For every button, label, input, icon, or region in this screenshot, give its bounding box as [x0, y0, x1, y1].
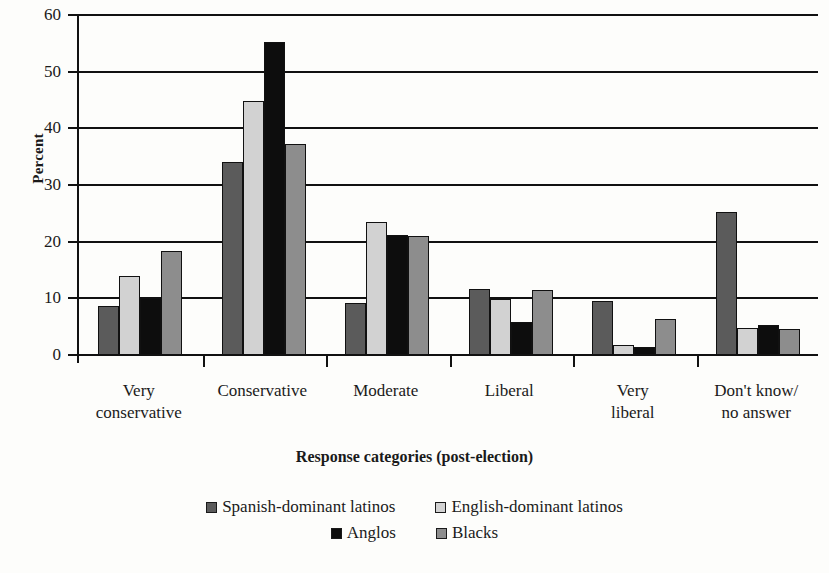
legend-swatch-icon — [435, 502, 446, 513]
legend-item: English-dominant latinos — [435, 497, 622, 517]
bar — [345, 303, 366, 355]
y-tick-mark — [68, 241, 77, 243]
bar — [285, 144, 306, 355]
legend-label: Spanish-dominant latinos — [222, 497, 395, 517]
x-tick-label: Don't know/no answer — [687, 380, 827, 424]
x-tick-mark — [450, 356, 452, 367]
bar — [737, 328, 758, 355]
x-tick-label-line: Very — [69, 380, 209, 402]
bar — [140, 298, 161, 355]
x-axis-title: Response categories (post-election) — [0, 448, 829, 466]
x-tick-label-line: conservative — [69, 402, 209, 424]
bar — [366, 222, 387, 355]
y-tick-mark — [68, 297, 77, 299]
legend-row: Spanish-dominant latinosEnglish-dominant… — [0, 497, 829, 517]
bar — [634, 347, 655, 355]
legend-row: AnglosBlacks — [0, 523, 829, 543]
x-tick-label: Moderate — [316, 380, 456, 402]
x-tick-mark — [326, 356, 328, 367]
bar — [387, 235, 408, 355]
bar-chart: Percent 0102030405060 VeryconservativeCo… — [0, 0, 829, 573]
bars-layer — [77, 15, 818, 355]
legend-label: Blacks — [452, 523, 498, 543]
x-tick-label-line: Don't know/ — [687, 380, 827, 402]
bar — [408, 236, 429, 355]
bar — [716, 212, 737, 355]
legend-swatch-icon — [206, 502, 217, 513]
y-tick-mark — [68, 14, 77, 16]
bar — [243, 101, 264, 355]
legend-item: Anglos — [331, 523, 396, 543]
x-tick-label-line: Very — [563, 380, 703, 402]
bar — [98, 306, 119, 355]
y-tick-label: 50 — [23, 63, 61, 80]
y-tick-mark — [68, 184, 77, 186]
bar — [655, 319, 676, 355]
x-tick-mark — [697, 356, 699, 367]
bar — [511, 322, 532, 355]
x-tick-label-line: liberal — [563, 402, 703, 424]
chart-legend: Spanish-dominant latinosEnglish-dominant… — [0, 497, 829, 549]
y-tick-mark — [68, 127, 77, 129]
bar — [592, 301, 613, 355]
legend-label: Anglos — [347, 523, 396, 543]
x-tick-mark — [573, 356, 575, 367]
bar — [222, 162, 243, 355]
bar — [469, 289, 490, 355]
bar — [532, 290, 553, 355]
bar — [161, 251, 182, 355]
x-tick-label: Conservative — [193, 380, 333, 402]
y-tick-label: 30 — [23, 176, 61, 193]
bar — [758, 325, 779, 355]
y-tick-label: 20 — [23, 233, 61, 250]
y-tick-label: 10 — [23, 289, 61, 306]
x-tick-label: Liberal — [440, 380, 580, 402]
bar — [779, 329, 800, 355]
legend-label: English-dominant latinos — [451, 497, 622, 517]
legend-swatch-icon — [331, 528, 342, 539]
x-tick-label-line: no answer — [687, 402, 827, 424]
bar — [490, 299, 511, 355]
legend-item: Blacks — [436, 523, 498, 543]
y-tick-label: 40 — [23, 119, 61, 136]
x-tick-label: Veryconservative — [69, 380, 209, 424]
x-tick-mark — [203, 356, 205, 367]
x-tick-label-line: Liberal — [440, 380, 580, 402]
y-axis-title: Percent — [30, 99, 47, 219]
y-tick-mark — [68, 354, 77, 356]
bar — [119, 276, 140, 355]
x-tick-label: Veryliberal — [563, 380, 703, 424]
y-tick-mark — [68, 71, 77, 73]
legend-swatch-icon — [436, 528, 447, 539]
y-tick-label: 0 — [23, 346, 61, 363]
plot-area — [77, 15, 818, 355]
bar — [264, 42, 285, 355]
x-tick-label-line: Conservative — [193, 380, 333, 402]
legend-item: Spanish-dominant latinos — [206, 497, 395, 517]
bar — [613, 345, 634, 355]
x-tick-label-line: Moderate — [316, 380, 456, 402]
y-tick-label: 60 — [23, 6, 61, 23]
